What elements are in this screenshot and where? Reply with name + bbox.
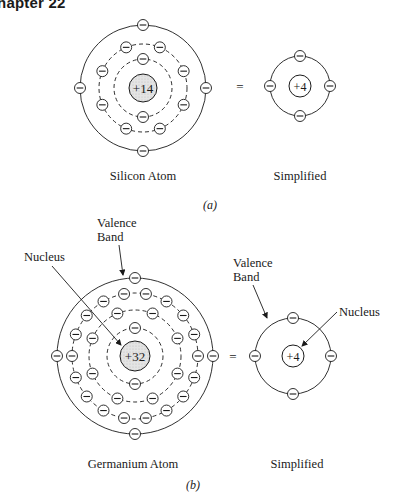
part-label-b: (b) <box>186 478 200 492</box>
equals-sign-b: = <box>229 349 236 364</box>
germanium-nucleus-label: Nucleus <box>24 250 65 264</box>
germanium-simplified-nucleus-charge: +4 <box>287 350 300 364</box>
simplified-valence-arrow <box>253 285 267 318</box>
silicon-simplified-nucleus-charge: +4 <box>294 80 307 94</box>
part-label-a: (a) <box>203 198 217 212</box>
germanium-valence-arrow <box>119 245 123 275</box>
equals-sign-a: = <box>236 79 243 94</box>
simplified-nucleus-arrow <box>302 312 337 346</box>
silicon-atom-caption: Silicon Atom <box>110 169 177 183</box>
silicon-nucleus-charge: +14 <box>133 81 154 96</box>
atom-diagram-figure: +14 = +4 Silicon Atom Simplified (a) +32… <box>0 0 401 504</box>
germanium-nucleus-arrow <box>52 266 121 345</box>
simplified-nucleus-label: Nucleus <box>339 305 380 319</box>
simplified-valence-label-line2: Band <box>233 270 260 284</box>
germanium-atom-caption: Germanium Atom <box>88 457 179 471</box>
germanium-valence-label-line2: Band <box>97 230 124 244</box>
germanium-simplified-caption: Simplified <box>271 457 325 471</box>
germanium-nucleus-charge: +32 <box>125 349 145 364</box>
germanium-valence-label-line1: Valence <box>97 216 137 230</box>
simplified-valence-label-line1: Valence <box>233 256 273 270</box>
silicon-simplified-caption: Simplified <box>274 169 328 183</box>
